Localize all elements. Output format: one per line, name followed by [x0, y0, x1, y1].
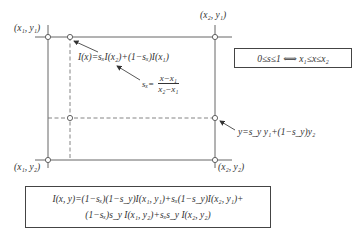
interp-x-formula: I(x)=sₓI(x₂)+(1−sₓ)I(x₁)	[78, 52, 169, 62]
sx-lhs: sₓ=	[142, 79, 154, 89]
point-x-y	[67, 115, 72, 120]
point-x2y2	[212, 157, 217, 162]
condition-text: 0≤s≤1 ⟺ x₁≤x≤x₂	[257, 53, 329, 64]
sx-numerator: x−x₁	[158, 73, 179, 84]
corner-label-top-left: (x₁, y₁)	[14, 23, 40, 33]
point-x2-y	[212, 115, 217, 120]
bilinear-formula-box: I(x, y)=(1−sₓ)(1−s_y)I(x₁, y₁)+sₓ(1−s_y)…	[25, 186, 271, 228]
arrow-to-y-point	[220, 121, 235, 130]
sx-denominator: x₂−x₁	[156, 84, 180, 95]
corner-label-bottom-left: (x₁, y₂)	[14, 162, 40, 172]
point-x2y1	[212, 34, 217, 39]
point-x1y2	[45, 157, 50, 162]
arrow-to-interp-x	[117, 66, 140, 80]
formula-line-1: I(x, y)=(1−sₓ)(1−s_y)I(x₁, y₁)+sₓ(1−s_y)…	[52, 191, 243, 207]
point-x1y1	[45, 34, 50, 39]
point-x-y1	[67, 34, 72, 39]
formula-line-2: (1−sₓ)s_y I(x₁, y₂)+sₓs_y I(x₂, y₂)	[85, 207, 210, 223]
corner-label-bottom-right: (x₂, y₂)	[218, 162, 244, 172]
sx-definition: sₓ= x−x₁ x₂−x₁	[142, 73, 180, 95]
arrow-to-x-point	[74, 41, 98, 52]
corner-label-top-right: (x₂, y₁)	[200, 10, 226, 20]
interp-y-formula: y=s_y y₁+(1−s_y)y₂	[238, 127, 315, 137]
condition-box: 0≤s≤1 ⟺ x₁≤x≤x₂	[234, 48, 352, 68]
